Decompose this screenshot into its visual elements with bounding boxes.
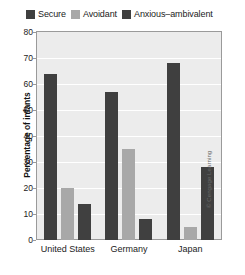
- bar: [78, 204, 91, 240]
- chart-legend: SecureAvoidantAnxious–ambivalent: [26, 8, 238, 21]
- legend-swatch-icon: [122, 10, 131, 19]
- bar: [139, 219, 152, 240]
- copyright-credit: © Cengage Learning: [206, 132, 212, 208]
- y-axis-tick-marks: [0, 31, 36, 240]
- legend-entry: Avoidant: [71, 10, 117, 19]
- x-axis-tick-label: Germany: [110, 243, 147, 255]
- bar-group: [37, 32, 98, 240]
- bar-chart-figure: SecureAvoidantAnxious–ambivalent Percent…: [0, 0, 245, 275]
- x-axis-tick-label: United States: [41, 243, 95, 255]
- legend-label: Anxious–ambivalent: [134, 10, 213, 19]
- bar: [184, 227, 197, 240]
- bar: [44, 74, 57, 240]
- legend-entry: Secure: [26, 10, 66, 19]
- legend-entry: Anxious–ambivalent: [122, 10, 213, 19]
- legend-swatch-icon: [26, 10, 35, 19]
- legend-label: Secure: [38, 10, 66, 19]
- bar: [167, 63, 180, 240]
- x-axis-tick-label: Japan: [178, 243, 203, 255]
- bar: [122, 149, 135, 240]
- legend-label: Avoidant: [83, 10, 117, 19]
- bar: [61, 188, 74, 240]
- legend-swatch-icon: [71, 10, 80, 19]
- bar-group: [98, 32, 159, 240]
- bar-series-container: [37, 32, 221, 240]
- x-axis-tick-labels: United StatesGermanyJapan: [36, 243, 222, 257]
- y-axis-tick-mark: [33, 240, 36, 241]
- bar: [105, 92, 118, 240]
